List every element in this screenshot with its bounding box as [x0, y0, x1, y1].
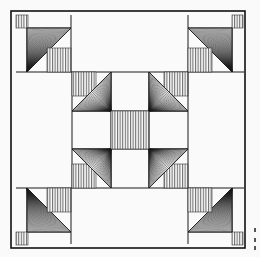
tl-hatch-square	[47, 48, 71, 72]
margin-mark	[254, 228, 256, 232]
tr-small-hatch	[232, 15, 243, 28]
margin-mark	[254, 238, 256, 242]
center-hatch-square	[111, 111, 149, 149]
quilt-block-figure	[0, 0, 260, 257]
bl-hatch-square	[47, 188, 71, 212]
margin-mark	[254, 246, 256, 250]
br-small-hatch	[232, 232, 243, 245]
tl-small-hatch	[16, 15, 28, 28]
bl-small-hatch	[16, 232, 28, 245]
tr-hatch-square	[188, 48, 212, 72]
br-hatch-square	[188, 188, 212, 212]
